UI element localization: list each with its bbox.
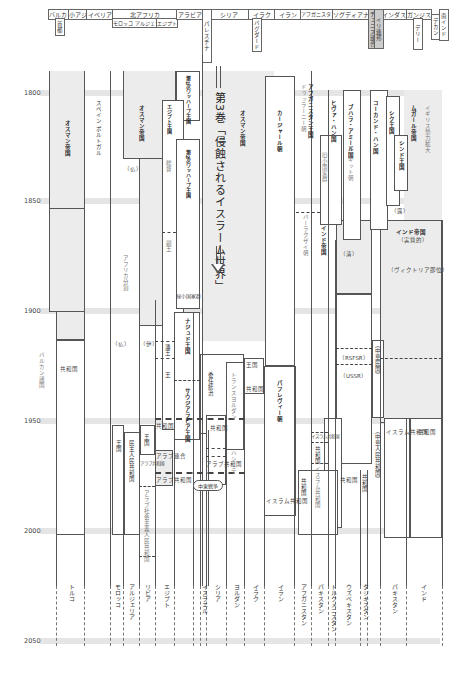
country-iran: イラン (276, 584, 285, 602)
divider (193, 312, 194, 586)
divider (311, 71, 312, 586)
country-iraq: イラク (251, 584, 260, 602)
country-turkmenistan: トルクメニスタン (329, 584, 338, 632)
label-hashemite: ハシミテ (230, 450, 238, 474)
country-israel: イスラエル (200, 584, 209, 614)
label-mandate: 委任統治 (207, 372, 215, 396)
label-algeria: 民主人民共和国 (128, 440, 136, 482)
divider (335, 240, 336, 586)
label-sultan: 藩王 (164, 344, 172, 356)
label-iraq-republic: 共和国 (246, 385, 264, 393)
country-india: インド (419, 584, 428, 602)
label-sogdiana-republic: 共和国 (340, 476, 358, 484)
label-italy: （伊） (140, 340, 158, 348)
divider (208, 430, 209, 586)
header-sogdiana: ソグディアナ (332, 9, 370, 20)
label-najd: ナジュド王国 (184, 318, 192, 354)
label-british-expansion: イギリス勢力拡大 (424, 105, 432, 153)
label-qing: （清） (340, 250, 358, 258)
label-ottoman-asia-minor: オスマン帝国 (64, 120, 72, 156)
year-label-1850: 1850 (24, 197, 41, 205)
label-iberia: スペイン ポルトガル (95, 100, 103, 156)
label-pahlavi: パフレヴィー朝 (276, 380, 284, 422)
divider (264, 366, 265, 586)
divider (110, 71, 111, 586)
label-barakzai: バーラクザイ朝 (302, 214, 310, 256)
label-balkan: バルカン諸国 (38, 352, 46, 388)
country-pakistan-2: パキスタン (390, 584, 399, 614)
divider (123, 425, 124, 586)
label-ottoman-north-africa: オスマン帝国 (138, 105, 146, 141)
vheader-capital: 首都 (55, 18, 65, 36)
label-egypt-arab-rep: アラブ共和国 (156, 476, 192, 484)
country-jordan: ヨルダン (232, 584, 241, 608)
vheader-south-india: 南インド (439, 9, 449, 41)
year-label-2000: 2000 (24, 527, 41, 535)
label-india-empire: インド帝国 (396, 228, 426, 236)
divider (226, 362, 227, 586)
label-syria-republic: 共和国 (156, 422, 174, 430)
subheader-maghreb: モロッコ アルジェリア リビア (112, 18, 158, 28)
label-libya-jamahiriya: アラブ社会主義人民共和国 (143, 490, 151, 562)
label-victoria: （ヴィクトリア即位） (388, 266, 448, 274)
vheader-ili: イリ連邦 (374, 9, 384, 49)
label-ussr: （USSR） (340, 372, 367, 380)
country-algeria: アルジェリア (127, 584, 136, 620)
label-iran-islamic-rep: イスラム共和国 (266, 497, 308, 505)
country-turkey: トルコ (67, 584, 76, 602)
label-india-republic: 共和国 (418, 428, 436, 436)
label-afg-republic: 共和国 (300, 478, 308, 496)
header-iran: イラン (274, 9, 302, 20)
divider-libya (139, 486, 155, 487)
divider-najd-saudi (174, 380, 200, 381)
year-label-1900: 1900 (24, 307, 41, 315)
vheader-palestine: パレスチナ (202, 9, 212, 63)
header-afghanistan: アフガニスタン (300, 9, 334, 20)
label-uar: アラブ連合 (156, 452, 186, 460)
divider-egypt-sultan-top (155, 341, 175, 342)
country-syria: シリア (213, 584, 222, 602)
label-hiva: ヒヴァ・ハン国 (330, 100, 338, 142)
divider-egypt-sultan-bottom (155, 358, 175, 359)
volume-title: 第3巻「侵蝕されるイスラーム世界」 (211, 92, 227, 292)
header-iberia: イベリア (86, 9, 114, 20)
block-ottoman-end (56, 312, 85, 340)
label-ottoman-syria: オスマン帝国 (239, 110, 247, 146)
divider-victoria (380, 358, 442, 359)
label-egypt-kingdom: エジプト王国 (166, 104, 173, 134)
label-libya-kingdom: 王国 (143, 434, 151, 446)
divider-barakzai (296, 212, 320, 213)
label-transjordan: トランスヨルダン (230, 372, 238, 420)
label-wahhab-2: 第2次ワッハーブ王国 (185, 150, 192, 198)
label-france-2: （仏） (112, 340, 130, 348)
divider (84, 71, 85, 586)
label-manghit: マンギット朝 (347, 145, 355, 181)
header-syria: シリア (208, 9, 250, 20)
label-mughal: ムガール帝国 (410, 105, 418, 141)
label-saudi: サウジアラビア王国 (184, 388, 192, 442)
divider-syria-uar-end (206, 456, 226, 457)
divider (442, 220, 443, 586)
label-small-states: 緑小国家群 (176, 292, 201, 299)
label-wahhab-1: 第1次ワッハーブ王国 (185, 76, 192, 124)
vheader-delhi: デリー (413, 18, 423, 50)
label-islam-rep-small: イスラム共和国 (311, 433, 339, 439)
label-governor: 総督 (165, 160, 173, 172)
divider (202, 55, 203, 586)
label-russia: （露） (391, 207, 409, 215)
divider (200, 354, 201, 586)
block-india-empire (380, 220, 442, 423)
header-arabia: アラビア (176, 9, 204, 20)
divider-rsfsr-bottom (336, 364, 372, 365)
block-ottoman-asia-minor-late (49, 209, 85, 312)
country-pakistan-1: パキスタン (316, 584, 325, 614)
label-roc: （中華民国） (374, 342, 382, 378)
label-sikh: シク王国 (388, 110, 396, 134)
country-libya: リビア (143, 584, 152, 602)
label-syria-rep-small: 共和国 (210, 424, 228, 432)
label-sindh: シンド王国 (398, 140, 406, 170)
label-afghan-kingdom: アフガニスタン王国 (307, 84, 315, 138)
header-asia-minor: 小アジア (68, 9, 88, 20)
year-label-1950: 1950 (24, 417, 41, 425)
label-viceroy: 副王 (165, 240, 173, 252)
